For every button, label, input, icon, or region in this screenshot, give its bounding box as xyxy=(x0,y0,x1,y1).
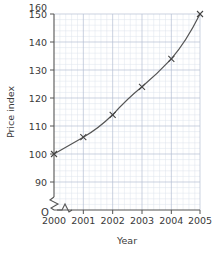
y-tick-label-160: 160 xyxy=(29,2,47,13)
price-index-line-chart: 90 100 110 120 130 140 150 160 2000 2001… xyxy=(0,0,223,257)
y-axis-title: Price index xyxy=(5,86,16,139)
y-tick-label-90: 90 xyxy=(35,177,47,188)
plot-background xyxy=(54,14,200,210)
chart-canvas: 90 100 110 120 130 140 150 160 2000 2001… xyxy=(0,0,223,257)
y-tick-label-130: 130 xyxy=(29,65,47,76)
x-tick-label-2004: 2004 xyxy=(159,215,183,226)
y-tick-label-110: 110 xyxy=(29,121,47,132)
y-tick-label-120: 120 xyxy=(29,93,47,104)
x-tick-marks xyxy=(83,210,200,214)
y-tick-label-140: 140 xyxy=(29,37,47,48)
x-tick-label-2003: 2003 xyxy=(130,215,154,226)
x-axis-title: Year xyxy=(116,235,137,246)
origin-label: O xyxy=(41,207,49,218)
y-tick-marks xyxy=(50,14,54,182)
y-tick-label-100: 100 xyxy=(29,149,47,160)
x-tick-label-2001: 2001 xyxy=(71,215,95,226)
x-tick-label-2002: 2002 xyxy=(101,215,125,226)
x-tick-label-2005: 2005 xyxy=(188,215,212,226)
